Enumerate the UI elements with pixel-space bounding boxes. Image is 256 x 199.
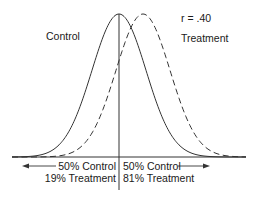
control-label: Control: [46, 30, 80, 42]
right-region-treatment-pct: 81% Treatment: [123, 172, 194, 184]
correlation-label: r = .40: [181, 12, 211, 24]
treatment-label: Treatment: [181, 32, 228, 44]
left-arrow: [22, 164, 56, 169]
left-region-control-pct: 50% Control: [58, 160, 116, 172]
arrow-right-icon: [203, 164, 210, 169]
right-arrow: [178, 164, 210, 169]
left-region-treatment-pct: 19% Treatment: [45, 172, 116, 184]
arrow-left-icon: [22, 164, 29, 169]
right-region-control-pct: 50% Control: [123, 160, 181, 172]
